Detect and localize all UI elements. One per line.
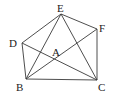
label-C: C: [98, 81, 105, 93]
label-B: B: [16, 81, 23, 93]
label-A: A: [52, 46, 60, 58]
label-E: E: [57, 2, 64, 14]
segment-BF: [26, 29, 97, 79]
label-D: D: [9, 37, 17, 49]
segment-DB: [22, 43, 26, 79]
segment-BC: [26, 79, 97, 80]
label-F: F: [99, 22, 105, 34]
segment-EC: [61, 14, 97, 80]
segment-EF: [61, 14, 97, 29]
geometry-figure: E F D A B C: [0, 0, 113, 95]
segment-DE: [22, 14, 61, 43]
